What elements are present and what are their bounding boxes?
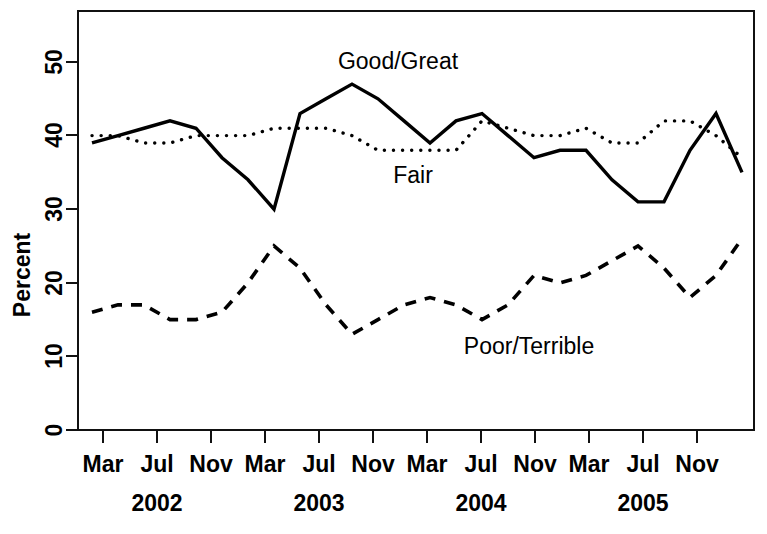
y-tick-label-0: 0 [41,424,67,437]
x-tick-label-5: Nov [351,451,395,477]
y-tick-label-10: 10 [41,343,67,369]
x-tick-label-2: Nov [189,451,233,477]
x-axis-year-labels: 2002200320042005 [131,490,668,516]
x-tick-label-1: Jul [140,451,173,477]
series-group [92,84,742,334]
x-tick-label-9: Mar [569,451,610,477]
y-tick-label-20: 20 [41,270,67,296]
x-tick-label-3: Mar [245,451,286,477]
y-tick-label-30: 30 [41,196,67,222]
x-year-label-2003: 2003 [293,490,344,516]
series-line-good-great [92,84,742,209]
x-year-label-2005: 2005 [617,490,668,516]
line-chart: 50 40 30 20 10 0 Percent MarJulNovMarJul… [0,0,767,534]
y-axis-tick-labels: 50 40 30 20 10 0 [41,49,67,436]
y-axis-ticks [66,62,78,430]
x-axis-ticks [103,430,697,443]
chart-container: 50 40 30 20 10 0 Percent MarJulNovMarJul… [0,0,767,534]
y-tick-label-40: 40 [41,122,67,148]
x-axis-tick-labels: MarJulNovMarJulNovMarJulNovMarJulNov [83,451,719,477]
x-tick-label-6: Mar [407,451,448,477]
x-year-label-2004: 2004 [455,490,506,516]
x-year-label-2002: 2002 [131,490,182,516]
x-tick-label-11: Nov [675,451,719,477]
series-line-poor-terrible [92,239,742,335]
x-tick-label-0: Mar [83,451,124,477]
series-annotation-poor-terrible: Poor/Terrible [464,333,594,359]
x-tick-label-8: Nov [513,451,557,477]
series-annotation-fair: Fair [393,162,433,188]
y-tick-label-50: 50 [41,49,67,75]
x-tick-label-10: Jul [626,451,659,477]
x-tick-label-4: Jul [302,451,335,477]
x-tick-label-7: Jul [464,451,497,477]
series-annotation-good-great: Good/Great [338,48,459,74]
y-axis-title: Percent [9,232,35,317]
